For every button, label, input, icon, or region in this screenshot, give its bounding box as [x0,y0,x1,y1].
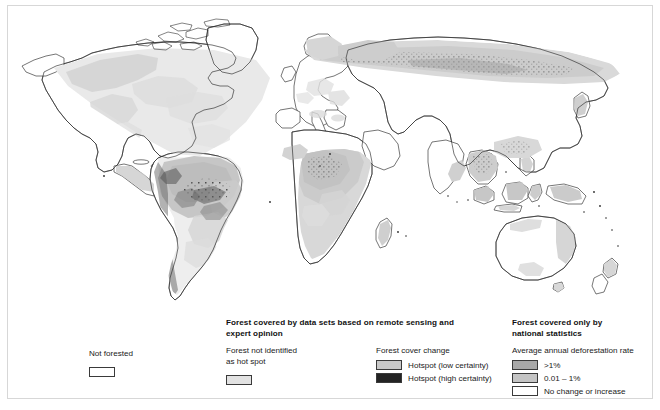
rate-high-label: >1% [544,360,560,371]
forest-cover-change-title: Forest cover change [376,346,516,357]
forest-cover-figure: Not forested Forest covered by data sets… [0,0,660,410]
legend-row-rate-high: >1% [512,360,660,371]
legend-row-hotspot-low: Hotspot (low certainty) [376,360,516,371]
legend-national-statistics-group: Forest covered only by national statisti… [512,318,660,399]
remote-sensing-title-line2: expert opinion [226,329,516,340]
not-identified-label-line2: as hot spot [226,357,323,368]
not-identified-swatch [226,375,252,385]
hotspot-low-label: Hotspot (low certainty) [408,360,489,371]
not-forested-swatch [89,367,115,377]
not-forested-label: Not forested [89,349,133,360]
legend-row-hotspot-high: Hotspot (high certainty) [376,373,516,384]
remote-sensing-title-line1: Forest covered by data sets based on rem… [226,318,516,329]
national-statistics-title-line2: national statistics [512,329,660,340]
legend-row-rate-none: No change or increase [512,386,660,397]
legend-not-identified-hotspot: Forest not identified as hot spot [226,346,323,388]
legend-row-rate-mid: 0.01 – 1% [512,373,660,384]
rate-none-swatch [512,386,538,396]
hotspot-low-swatch [376,360,402,370]
rate-none-label: No change or increase [544,386,625,397]
legend-forest-cover-change: Forest cover change Hotspot (low certain… [376,346,516,388]
rate-mid-label: 0.01 – 1% [544,373,580,384]
hotspot-high-swatch [376,373,402,383]
rate-mid-swatch [512,373,538,383]
legend-remote-sensing-group: Forest covered by data sets based on rem… [226,318,516,388]
deforestation-rate-title: Average annual deforestation rate [512,346,660,357]
hotspot-high-label: Hotspot (high certainty) [408,373,492,384]
rate-high-swatch [512,360,538,370]
not-identified-label-line1: Forest not identified [226,346,323,357]
national-statistics-title-line1: Forest covered only by [512,318,660,329]
legend-not-forested: Not forested [89,349,133,381]
map-panel[interactable] [8,6,652,308]
world-map[interactable] [8,6,652,308]
iberia-outline [276,108,300,128]
map-legend: Not forested Forest covered by data sets… [8,312,652,398]
